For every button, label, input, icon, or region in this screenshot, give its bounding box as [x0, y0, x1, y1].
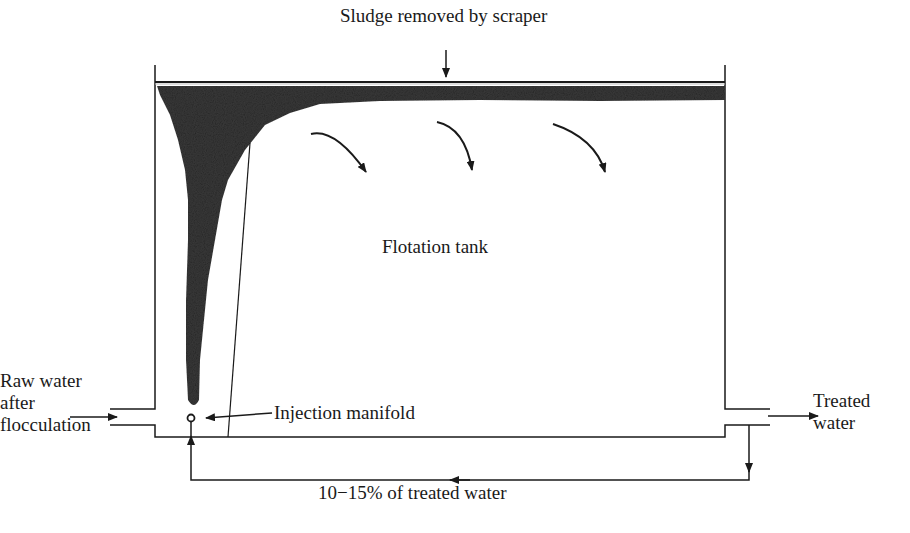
- flow-arrow-2: [437, 122, 472, 170]
- injection-manifold: [188, 415, 195, 422]
- inlet-label: Raw water after flocculation: [0, 370, 91, 436]
- outlet-label: Treated water: [813, 390, 870, 434]
- flotation-diagram: [0, 0, 910, 533]
- inlet-label-line3: flocculation: [0, 414, 91, 436]
- recycle-loop: [191, 422, 749, 480]
- inlet-label-line1: Raw water: [0, 370, 91, 392]
- outlet-label-line1: Treated: [813, 390, 870, 412]
- manifold-pointer: [206, 413, 272, 418]
- tank-label: Flotation tank: [382, 236, 488, 258]
- flow-arrow-3: [553, 124, 605, 172]
- sludge-label: Sludge removed by scraper: [340, 5, 547, 27]
- baffle-line: [228, 143, 250, 437]
- flow-arrow-1: [311, 133, 366, 172]
- recycle-label: 10−15% of treated water: [318, 482, 507, 504]
- manifold-label: Injection manifold: [274, 402, 415, 424]
- inlet-label-line2: after: [0, 392, 91, 414]
- outlet-label-line2: water: [813, 412, 870, 434]
